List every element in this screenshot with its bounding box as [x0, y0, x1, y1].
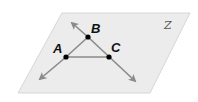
point-c [106, 54, 111, 59]
label-b: B [91, 21, 100, 36]
label-a: A [52, 41, 62, 56]
geometry-diagram: A B C Z [0, 0, 198, 102]
point-b [85, 34, 90, 39]
label-plane: Z [163, 19, 172, 32]
point-a [63, 54, 68, 59]
label-c: C [111, 40, 121, 55]
